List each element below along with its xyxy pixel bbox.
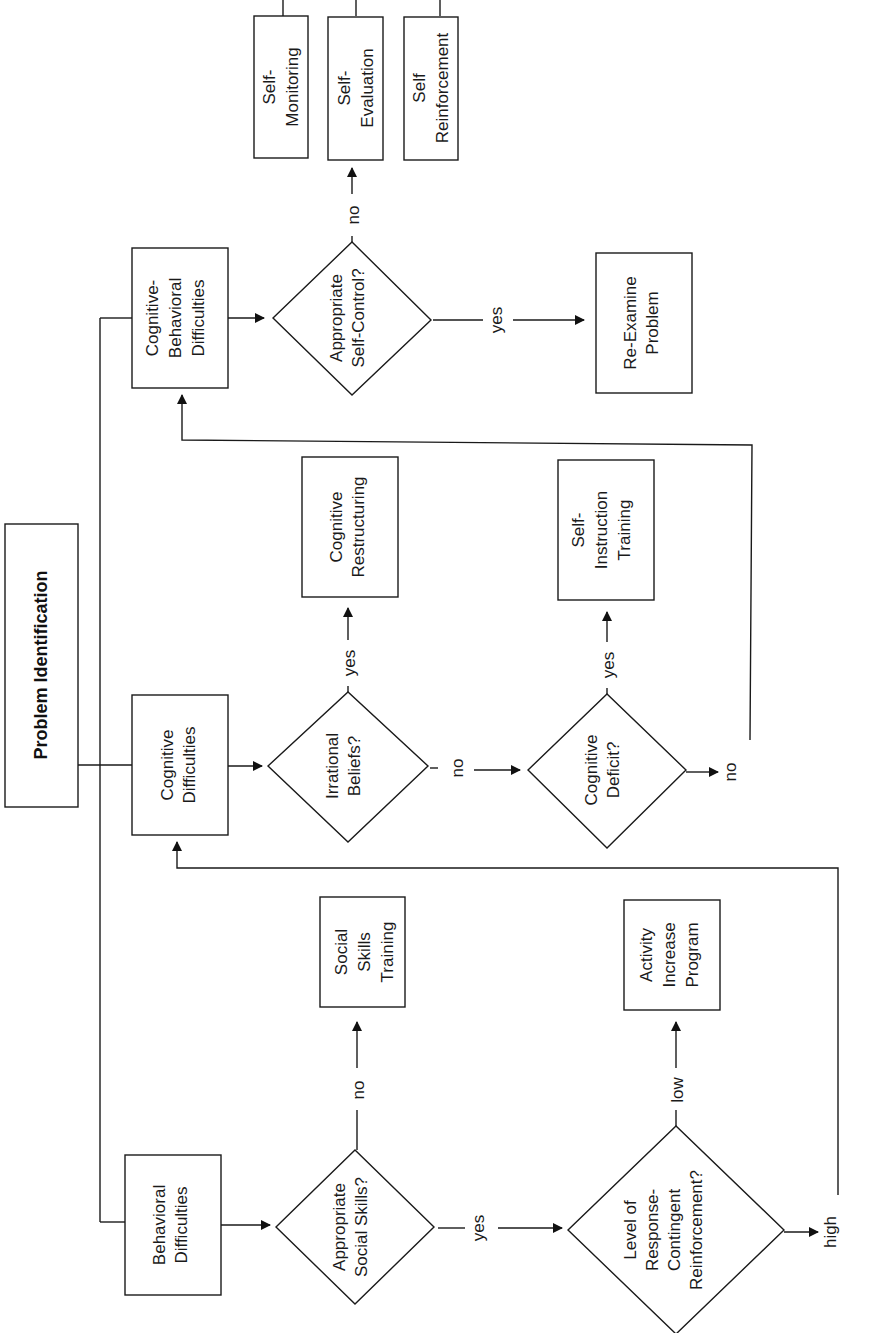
node-line: Level of: [621, 1200, 640, 1260]
node-line: Contingent: [665, 1189, 684, 1272]
spine-connectors: [78, 318, 132, 1222]
node-line: Difficulties: [172, 1186, 191, 1263]
cognitive-restructuring-box: Cognitive Restructuring: [302, 457, 398, 597]
node-line: Behavioral: [150, 1185, 169, 1265]
node-line: Restructuring: [349, 476, 368, 577]
node-line: Reinforcement: [433, 32, 452, 143]
flowchart: Problem Identification Behavioral Diffic…: [0, 0, 870, 1333]
node-line: Self: [410, 73, 429, 103]
node-line: Cognitive: [327, 492, 346, 563]
node-line: Cognitive-: [143, 280, 162, 357]
node-line: Deficit?: [604, 742, 623, 799]
decision-cognitive-deficit: Cognitive Deficit?: [528, 694, 686, 848]
node-line: Program: [683, 922, 702, 987]
edge-label-yes: yes: [340, 650, 359, 676]
title-text: Problem Identification: [31, 570, 51, 759]
node-line: Instruction: [592, 491, 611, 569]
edge-label-no: no: [448, 759, 467, 778]
node-line: Cognitive: [158, 730, 177, 801]
node-line: Irrational: [323, 733, 342, 799]
edge-label-no: no: [344, 206, 363, 225]
edge-label-no: no: [721, 763, 740, 782]
problem-identification-box: Problem Identification: [5, 524, 78, 807]
self-monitoring-box: Self- Monitoring: [254, 16, 308, 158]
node-line: Difficulties: [189, 279, 208, 356]
re-examine-problem-box: Re-Examine Problem: [596, 253, 692, 393]
node-line: Training: [615, 500, 634, 561]
node-line: Social Skills?: [352, 1177, 371, 1277]
self-evaluation-box: Self- Evaluation: [328, 17, 383, 160]
node-line: Behavioral: [166, 278, 185, 358]
node-line: Skills: [355, 932, 374, 972]
edge-label-low: low: [668, 1077, 687, 1103]
edge-label-high: high: [821, 1216, 840, 1248]
node-line: Appropriate: [327, 274, 346, 362]
edge-label-no: no: [349, 1081, 368, 1100]
loop-high-to-cognitive: [177, 842, 838, 1195]
node-line: Training: [378, 922, 397, 983]
self-reinforcement-box: Self Reinforcement: [404, 17, 458, 160]
node-line: Problem: [643, 291, 662, 354]
edge-label-yes: yes: [469, 1215, 488, 1241]
node-line: Self-Control?: [349, 268, 368, 367]
edge-label-yes: yes: [487, 307, 506, 333]
node-line: Monitoring: [283, 47, 302, 126]
node-line: Appropriate: [330, 1183, 349, 1271]
node-line: Response-: [643, 1189, 662, 1271]
node-line: Beliefs?: [345, 736, 364, 796]
loop-no-to-cognitive-behavioral: [182, 395, 752, 740]
decision-self-control: Appropriate Self-Control?: [273, 242, 431, 395]
node-line: Self-: [335, 71, 354, 106]
node-line: Increase: [660, 922, 679, 987]
cognitive-behavioral-difficulties-box: Cognitive- Behavioral Difficulties: [132, 248, 228, 388]
node-line: Re-Examine: [621, 276, 640, 370]
decision-reinforcement: Level of Response- Contingent Reinforcem…: [568, 1126, 784, 1333]
node-line: Evaluation: [358, 48, 377, 127]
node-line: Social: [332, 929, 351, 975]
self-boxes-connector: [283, 0, 440, 16]
node-line: Reinforcement?: [687, 1170, 706, 1290]
decision-irrational-beliefs: Irrational Beliefs?: [268, 692, 428, 842]
edge-label-yes: yes: [599, 652, 618, 678]
node-line: Self-: [569, 513, 588, 548]
social-skills-training-box: Social Skills Training: [320, 897, 405, 1007]
node-line: Cognitive: [582, 735, 601, 806]
node-line: Difficulties: [180, 726, 199, 803]
behavioral-difficulties-box: Behavioral Difficulties: [125, 1155, 221, 1295]
decision-social-skills: Appropriate Social Skills?: [276, 1150, 434, 1304]
activity-increase-program-box: Activity Increase Program: [624, 900, 720, 1010]
node-line: Self-: [260, 70, 279, 105]
cognitive-difficulties-box: Cognitive Difficulties: [132, 695, 228, 835]
self-instruction-training-box: Self- Instruction Training: [558, 460, 654, 600]
node-line: Activity: [637, 928, 656, 982]
